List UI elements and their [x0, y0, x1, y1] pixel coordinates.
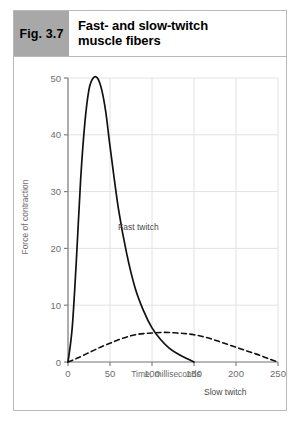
x-tick-label: 200 [228, 368, 244, 379]
grid-lines [68, 78, 278, 362]
figure-panel: Fig. 3.7 Fast- and slow-twitch muscle fi… [13, 10, 287, 411]
y-tick-label: 10 [50, 300, 61, 311]
figure-title-line-2: muscle fibers [78, 34, 208, 49]
y-tick-label: 0 [56, 357, 61, 368]
x-tick-label: 50 [105, 368, 116, 379]
x-tick-label: 250 [270, 368, 286, 379]
figure-number-box: Fig. 3.7 [14, 11, 69, 56]
series-line-fast-twitch [68, 77, 194, 362]
y-tick-label: 30 [50, 186, 61, 197]
plot-region: 050100150200250 01020304050 Fast twitchS… [14, 57, 286, 410]
y-tick-label: 50 [50, 73, 61, 84]
y-tick-label: 40 [50, 129, 61, 140]
axis-lines [68, 78, 278, 362]
y-tick-label: 20 [50, 243, 61, 254]
x-axis-title: Time, milliseconds [131, 369, 201, 379]
y-tick-labels: 01020304050 [50, 73, 61, 368]
figure-title-line-1: Fast- and slow-twitch [78, 19, 208, 34]
figure-title: Fast- and slow-twitch muscle fibers [78, 19, 208, 48]
figure-title-container: Fast- and slow-twitch muscle fibers [69, 11, 286, 56]
figure-header: Fig. 3.7 Fast- and slow-twitch muscle fi… [14, 11, 286, 57]
twitch-force-chart: 050100150200250 01020304050 Fast twitchS… [14, 57, 286, 410]
y-axis-title: Force of contraction [20, 179, 30, 254]
data-series-group [68, 77, 278, 362]
series-line-slow-twitch [68, 332, 278, 362]
tick-marks [64, 78, 278, 366]
x-tick-label: 0 [65, 368, 70, 379]
series-annotation-slow-twitch: Slow twitch [204, 387, 247, 397]
series-annotation-fast-twitch: Fast twitch [118, 222, 159, 232]
figure-number-label: Fig. 3.7 [20, 27, 64, 41]
